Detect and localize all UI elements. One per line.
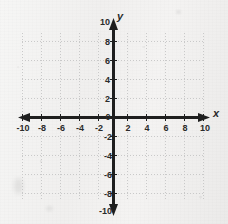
xtick-label-10: 10 [200,124,210,133]
ytick-label-2: 2 [105,94,110,103]
ytick-label-4: 4 [105,75,110,84]
ytick-label-8: 8 [105,37,110,46]
ytick-label-10: 10 [100,18,110,27]
ytick-label--6: -6 [104,170,112,179]
ytick-label-6: 6 [105,56,110,65]
ytick-label--2: -2 [104,132,112,141]
xtick-label--10: -10 [16,124,29,133]
xtick-label--4: -4 [76,124,84,133]
ytick-label--4: -4 [104,151,112,160]
x-axis-label: x [213,108,219,119]
x-axis-arrow-left [18,113,30,122]
y-axis-label: y [117,11,123,22]
ytick-label--8: -8 [104,189,112,198]
xtick-label-2: 2 [125,124,130,133]
xtick-label--2: -2 [95,124,103,133]
xtick-label-8: 8 [182,124,187,133]
origin-label: 0 [105,113,110,122]
xtick-label--6: -6 [57,124,65,133]
xtick-label-4: 4 [144,124,149,133]
coordinate-plane [0,0,228,224]
ytick-label--10: -10 [99,207,112,216]
xtick-label-6: 6 [163,124,168,133]
xtick-label--8: -8 [38,124,46,133]
figure-canvas: -10 -8 -6 -4 -2 0 2 4 6 8 10 10 8 6 4 2 … [0,0,228,224]
